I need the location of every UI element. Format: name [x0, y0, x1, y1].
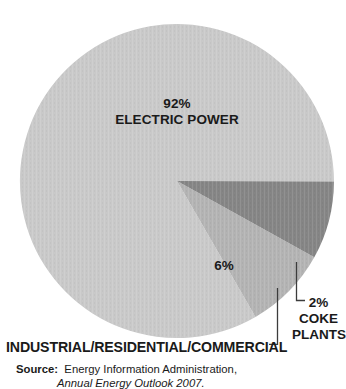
- coke-plants-percent: 2%: [292, 295, 345, 311]
- pie-chart-plot-area: 92% ELECTRIC POWER 6%: [0, 0, 345, 345]
- coke-plants-name-line1: COKE: [292, 311, 345, 327]
- source-note: Source: Energy Information Administratio…: [16, 362, 237, 389]
- slice-label-electric-power: 92% ELECTRIC POWER: [72, 96, 282, 128]
- pie-texture-overlay: [20, 24, 334, 338]
- electric-power-name: ELECTRIC POWER: [72, 112, 282, 128]
- slice-label-coke-plants: 2% COKE PLANTS: [292, 295, 345, 343]
- source-line-2: Annual Energy Outlook 2007.: [16, 376, 237, 389]
- electric-power-percent: 92%: [72, 96, 282, 112]
- source-label: Source:: [16, 363, 58, 375]
- source-text-1: Energy Information Administration,: [64, 363, 237, 375]
- coke-plants-name-line2: PLANTS: [292, 327, 345, 343]
- slice-label-industrial-name: INDUSTRIAL/RESIDENTIAL/COMMERCIAL: [6, 339, 287, 355]
- source-line-1: Source: Energy Information Administratio…: [16, 362, 237, 376]
- slice-label-industrial-percent: 6%: [202, 258, 246, 274]
- pie-chart-svg: [0, 0, 345, 345]
